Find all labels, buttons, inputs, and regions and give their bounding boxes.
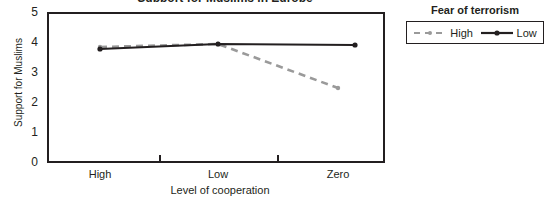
plot-canvas xyxy=(47,12,385,163)
x-axis-ticks xyxy=(160,155,278,163)
y-tick-label-2: 2 xyxy=(16,96,38,108)
legend-label-low: Low xyxy=(517,27,537,39)
legend-entry-low[interactable]: Low xyxy=(480,27,537,39)
legend-swatch-solid-line-icon xyxy=(480,28,514,38)
legend: Fear of terrorism High Low xyxy=(406,4,544,44)
chart-title: Support for Muslims in Europe xyxy=(75,0,375,2)
series-low xyxy=(97,41,357,51)
legend-swatch-dashed-line-icon xyxy=(413,28,447,38)
y-tick-label-0: 0 xyxy=(16,156,38,168)
y-tick-label-4: 4 xyxy=(16,36,38,48)
y-tick-label-5: 5 xyxy=(16,6,38,18)
legend-entry-high[interactable]: High xyxy=(413,27,473,39)
x-axis-title: Level of cooperation xyxy=(100,184,340,196)
legend-box: High Low xyxy=(406,21,544,44)
y-axis-ticks xyxy=(47,13,55,162)
series-high xyxy=(98,42,340,90)
x-tick-label-low: Low xyxy=(183,168,253,181)
chart-figure: Support for Muslims in Europe Support fo… xyxy=(0,0,546,202)
y-tick-label-3: 3 xyxy=(16,66,38,78)
legend-title: Fear of terrorism xyxy=(406,4,544,16)
y-tick-label-1: 1 xyxy=(16,126,38,138)
x-tick-label-zero: Zero xyxy=(303,168,373,181)
x-tick-label-high: High xyxy=(65,168,135,181)
legend-label-high: High xyxy=(450,27,473,39)
